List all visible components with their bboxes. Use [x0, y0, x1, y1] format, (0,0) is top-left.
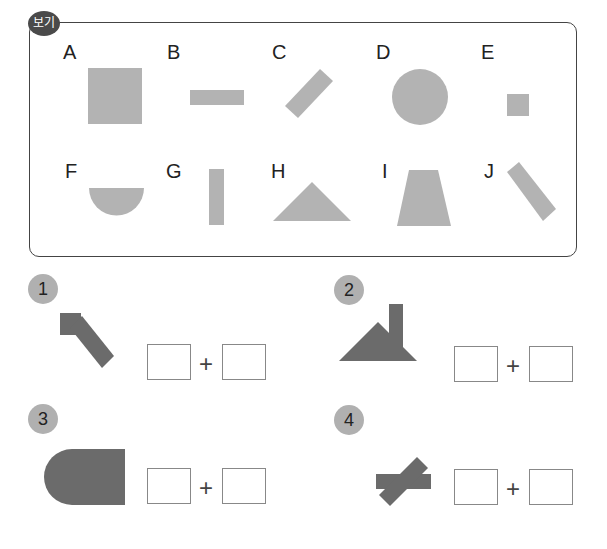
shape-c-tilted-rectangle: [285, 69, 333, 118]
shape-b-rectangle: [190, 90, 244, 105]
shape-i-trapezoid: [397, 170, 451, 226]
problem-4-answer-right[interactable]: [529, 469, 573, 505]
problem-1-answer-right[interactable]: [222, 344, 266, 380]
problem-2-plus: +: [506, 354, 520, 378]
problem-3-plus: +: [199, 476, 213, 500]
problem-1-plus: +: [199, 352, 213, 376]
shape-a-square: [88, 68, 142, 124]
problem-1-bar: [70, 316, 114, 368]
shape-e-small-square: [507, 94, 529, 116]
problem-4-plus: +: [506, 477, 520, 501]
shape-j-tilted-rectangle: [507, 162, 556, 221]
problem-1-answer-left[interactable]: [147, 344, 191, 380]
problem-3-half-round: [44, 449, 125, 505]
problem-4-answer-left[interactable]: [454, 469, 498, 505]
problem-3-answer-right[interactable]: [222, 468, 266, 504]
shapes-canvas: [0, 0, 607, 549]
problem-2-number: 2: [334, 275, 364, 305]
problem-1-number: 1: [28, 274, 58, 304]
problem-3-number: 3: [28, 404, 58, 434]
shape-h-triangle: [273, 182, 351, 221]
problem-2-chimney: [389, 304, 403, 361]
problem-2-answer-right[interactable]: [529, 346, 573, 382]
problem-2-triangle: [339, 322, 417, 361]
problem-3-answer-left[interactable]: [147, 468, 191, 504]
problem-4-number: 4: [334, 405, 364, 435]
shape-g-vertical-rectangle: [209, 169, 224, 225]
shape-d-circle: [392, 69, 448, 125]
problem-2-answer-left[interactable]: [454, 346, 498, 382]
shape-f-half-circle: [89, 188, 144, 215]
